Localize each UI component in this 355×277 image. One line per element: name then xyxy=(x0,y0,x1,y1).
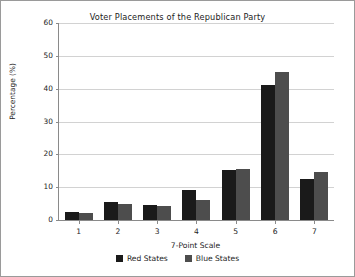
x-tick-mark xyxy=(118,221,119,224)
x-tick-mark xyxy=(196,221,197,224)
bar[interactable] xyxy=(157,206,171,220)
bar-group: 1 xyxy=(59,23,98,220)
x-axis-label: 7-Point Scale xyxy=(58,241,333,250)
x-tick-mark xyxy=(314,221,315,224)
x-tick-label: 7 xyxy=(295,228,334,236)
bar[interactable] xyxy=(222,170,236,220)
x-tick-mark xyxy=(236,221,237,224)
bar-group: 2 xyxy=(98,23,137,220)
bar[interactable] xyxy=(196,200,210,220)
legend-label: Blue States xyxy=(196,255,239,263)
bar[interactable] xyxy=(275,72,289,220)
y-tick-label: 50 xyxy=(44,52,53,59)
bar[interactable] xyxy=(182,190,196,220)
x-tick-mark xyxy=(79,221,80,224)
bar[interactable] xyxy=(118,204,132,220)
bar-group: 5 xyxy=(216,23,255,220)
bar[interactable] xyxy=(143,205,157,220)
legend-label: Red States xyxy=(127,255,168,263)
y-tick-label: 30 xyxy=(44,118,53,125)
bar-group: 4 xyxy=(177,23,216,220)
y-tick-label: 60 xyxy=(44,19,53,26)
bar[interactable] xyxy=(79,213,93,220)
bar-group: 3 xyxy=(138,23,177,220)
chart-figure: Voter Placements of the Republican Party… xyxy=(0,0,355,277)
bar-group: 7 xyxy=(295,23,334,220)
x-tick-label: 1 xyxy=(59,228,98,236)
legend-item[interactable]: Red States xyxy=(116,255,168,263)
y-tick-label: 40 xyxy=(44,85,53,92)
y-axis-label: Percentage (%) xyxy=(8,37,17,147)
y-tick-label: 0 xyxy=(48,216,53,223)
x-tick-mark xyxy=(275,221,276,224)
bar[interactable] xyxy=(261,85,275,220)
bar[interactable] xyxy=(104,202,118,220)
x-tick-label: 5 xyxy=(216,228,255,236)
x-tick-label: 6 xyxy=(255,228,294,236)
bar[interactable] xyxy=(65,212,79,220)
bar-groups: 1234567 xyxy=(59,23,334,220)
bar[interactable] xyxy=(314,172,328,220)
bar[interactable] xyxy=(300,179,314,220)
y-tick-label: 10 xyxy=(44,183,53,190)
x-tick-label: 4 xyxy=(177,228,216,236)
y-tick-mark xyxy=(56,220,59,221)
plot-area: 0102030405060 1234567 xyxy=(58,23,334,221)
chart-title: Voter Placements of the Republican Party xyxy=(1,12,354,22)
bar[interactable] xyxy=(236,169,250,220)
x-tick-mark xyxy=(157,221,158,224)
legend-item[interactable]: Blue States xyxy=(185,255,239,263)
bar-group: 6 xyxy=(255,23,294,220)
legend-swatch-icon xyxy=(185,255,192,262)
legend-swatch-icon xyxy=(116,255,123,262)
x-tick-label: 3 xyxy=(138,228,177,236)
x-tick-label: 2 xyxy=(98,228,137,236)
chart-legend: Red StatesBlue States xyxy=(1,255,354,263)
y-tick-label: 20 xyxy=(44,151,53,158)
